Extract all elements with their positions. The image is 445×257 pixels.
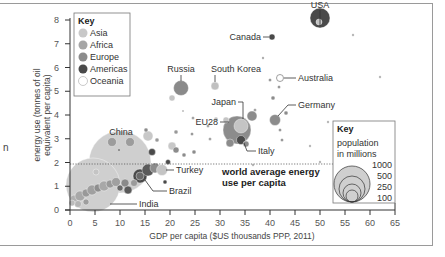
svg-text:500: 500 bbox=[377, 171, 392, 181]
bubble-germany bbox=[270, 115, 281, 126]
label-australia: Australia bbox=[298, 73, 333, 83]
svg-text:25: 25 bbox=[190, 218, 200, 228]
label-germany: Germany bbox=[298, 100, 336, 110]
world-average-label-1: world average energy bbox=[221, 166, 320, 177]
svg-text:10: 10 bbox=[115, 218, 125, 228]
svg-text:7: 7 bbox=[54, 39, 59, 49]
svg-text:population: population bbox=[337, 138, 379, 148]
label-eu28: EU28 bbox=[195, 117, 218, 127]
svg-text:1000: 1000 bbox=[372, 160, 392, 170]
x-axis bbox=[65, 203, 395, 215]
svg-text:45: 45 bbox=[290, 218, 300, 228]
label-china: China bbox=[109, 127, 133, 137]
svg-text:6: 6 bbox=[54, 63, 59, 73]
svg-text:100: 100 bbox=[377, 193, 392, 203]
world-average-label-2: use per capita bbox=[222, 177, 287, 188]
svg-text:5: 5 bbox=[92, 218, 97, 228]
svg-text:Africa: Africa bbox=[90, 40, 113, 50]
bubble-turkey bbox=[157, 165, 168, 176]
africa-swatch-icon bbox=[79, 41, 88, 50]
svg-text:Americas: Americas bbox=[90, 64, 128, 74]
bubble-chart: 8 7 6 5 4 3 2 1 0 energy use (tonnes of … bbox=[0, 0, 445, 257]
region-key: Key Asia Africa Europe Americas Oceania bbox=[74, 13, 130, 96]
x-axis-title: GDP per capita ($US thousands PPP, 2011) bbox=[149, 231, 315, 241]
label-italy: Italy bbox=[258, 146, 275, 156]
label-russia: Russia bbox=[167, 64, 195, 74]
svg-text:0: 0 bbox=[54, 205, 59, 215]
oceania-swatch-icon bbox=[79, 77, 88, 86]
y-tick-labels: 8 7 6 5 4 3 2 1 0 bbox=[54, 15, 59, 215]
svg-text:35: 35 bbox=[240, 218, 250, 228]
asia-swatch-icon bbox=[79, 29, 88, 38]
svg-text:0: 0 bbox=[67, 218, 72, 228]
label-turkey: Turkey bbox=[176, 165, 204, 175]
y-axis-title: energy use (tonnes of oil equivalent per… bbox=[32, 68, 52, 161]
svg-text:Oceania: Oceania bbox=[90, 76, 124, 86]
svg-text:Key: Key bbox=[337, 124, 354, 134]
svg-text:40: 40 bbox=[265, 218, 275, 228]
svg-text:in millions: in millions bbox=[337, 149, 377, 159]
bubble-canada bbox=[269, 34, 275, 40]
svg-text:Europe: Europe bbox=[90, 52, 119, 62]
americas-swatch-icon bbox=[79, 65, 88, 74]
label-usa: USA bbox=[311, 0, 330, 10]
bubble-japan bbox=[234, 119, 248, 133]
svg-text:3: 3 bbox=[54, 134, 59, 144]
label-canada: Canada bbox=[229, 32, 261, 42]
bubble-south-korea bbox=[211, 82, 219, 90]
svg-text:equivalent per capita): equivalent per capita) bbox=[42, 74, 52, 155]
svg-text:50: 50 bbox=[315, 218, 325, 228]
svg-text:1: 1 bbox=[54, 181, 59, 191]
svg-text:55: 55 bbox=[340, 218, 350, 228]
svg-text:2: 2 bbox=[54, 158, 59, 168]
svg-text:Key: Key bbox=[78, 16, 95, 26]
label-south-korea: South Korea bbox=[211, 64, 261, 74]
svg-text:15: 15 bbox=[140, 218, 150, 228]
svg-text:5: 5 bbox=[54, 86, 59, 96]
svg-text:energy use (tonnes of oil: energy use (tonnes of oil bbox=[32, 68, 42, 161]
label-brazil: Brazil bbox=[169, 186, 192, 196]
svg-text:65: 65 bbox=[390, 218, 400, 228]
svg-text:8: 8 bbox=[54, 15, 59, 25]
svg-text:30: 30 bbox=[215, 218, 225, 228]
population-key: Key population in millions 1000 500 250 … bbox=[333, 121, 395, 203]
svg-text:60: 60 bbox=[365, 218, 375, 228]
label-india: India bbox=[139, 199, 159, 209]
label-japan: Japan bbox=[211, 97, 236, 107]
svg-text:4: 4 bbox=[54, 110, 59, 120]
svg-text:250: 250 bbox=[377, 182, 392, 192]
bubble-australia bbox=[277, 75, 284, 82]
bubble-russia bbox=[174, 81, 189, 96]
svg-text:20: 20 bbox=[165, 218, 175, 228]
europe-swatch-icon bbox=[79, 53, 88, 62]
x-tick-labels: 0 5 10 15 20 25 30 35 40 45 50 55 60 65 bbox=[67, 218, 400, 228]
svg-text:Asia: Asia bbox=[90, 28, 108, 38]
